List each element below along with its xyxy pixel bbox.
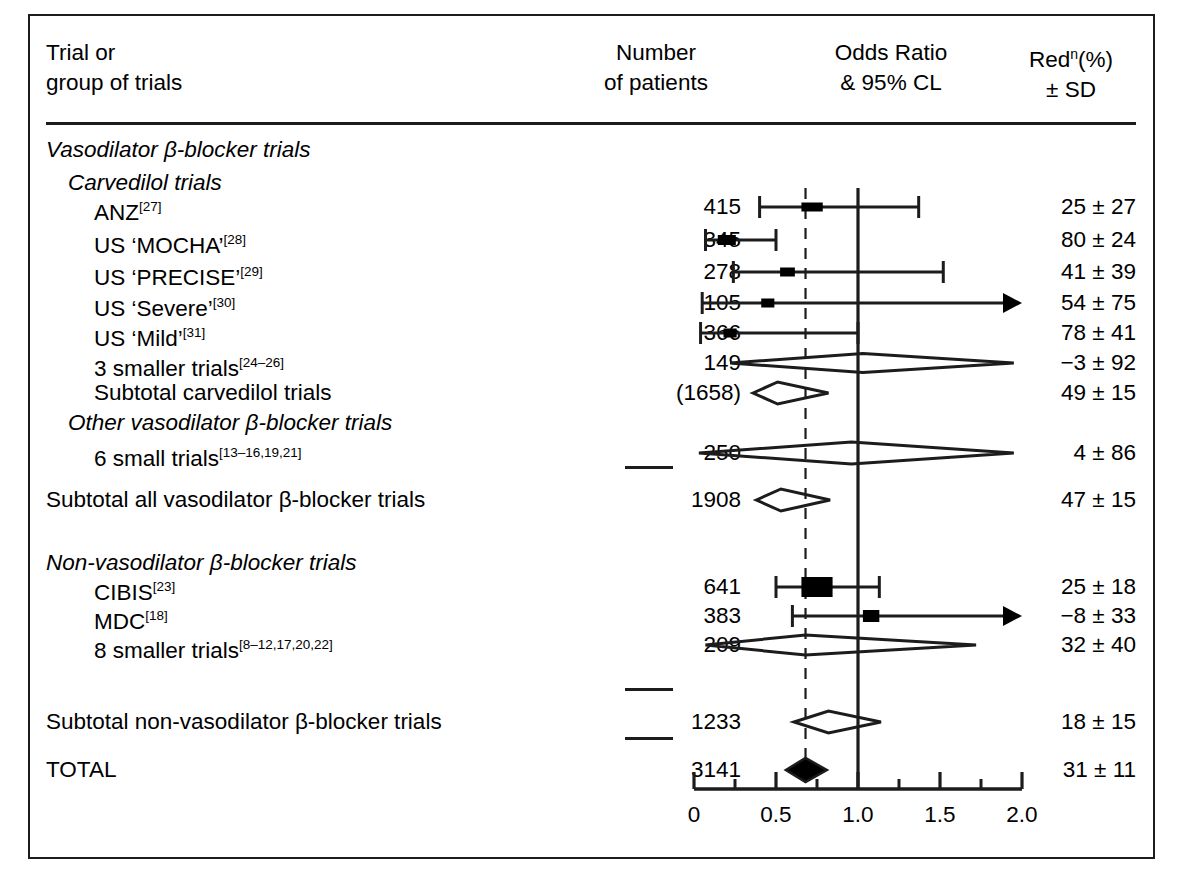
row-label-text: Subtotal non-vasodilator β-blocker trial…	[46, 709, 442, 734]
row-patient-count: 250	[546, 438, 741, 468]
row-reduction-value: −8 ± 33	[996, 601, 1136, 631]
table-row: ANZ[27]41525 ± 27	[46, 192, 1136, 222]
row-label-text: Vasodilator β-blocker trials	[46, 137, 311, 162]
row-label-reference: [24–26]	[239, 355, 284, 370]
row-patient-count: 345	[546, 225, 741, 255]
row-label-text: US ‘PRECISE’	[94, 265, 240, 290]
subtotal-rule-vasodilator	[625, 466, 673, 469]
table-row: TOTAL314131 ± 11	[46, 755, 1136, 785]
row-label-reference: [28]	[224, 232, 247, 247]
table-row: US ‘PRECISE’[29]27841 ± 39	[46, 257, 1136, 287]
row-reduction-value: 25 ± 27	[996, 192, 1136, 222]
subtotal-rule-nonvasodilator	[625, 688, 673, 691]
row-label: TOTAL	[46, 755, 116, 785]
row-label-text: ANZ	[94, 200, 139, 225]
row-reduction-value: 32 ± 40	[996, 630, 1136, 660]
row-label: Vasodilator β-blocker trials	[46, 135, 311, 165]
row-patient-count: 149	[546, 348, 741, 378]
table-row: Vasodilator β-blocker trials	[46, 135, 1136, 165]
x-axis-tick-label: 2.0	[992, 800, 1052, 830]
row-reduction-value: 80 ± 24	[996, 225, 1136, 255]
table-row: Subtotal non-vasodilator β-blocker trial…	[46, 707, 1136, 737]
x-axis-tick-label: 1.5	[910, 800, 970, 830]
row-reduction-value: 49 ± 15	[996, 378, 1136, 408]
table-row: US ‘Mild’[31]36678 ± 41	[46, 318, 1136, 348]
row-reduction-value: 54 ± 75	[996, 288, 1136, 318]
row-reduction-value: 78 ± 41	[996, 318, 1136, 348]
row-patient-count: 1233	[546, 707, 741, 737]
x-axis-tick-label: 1.0	[828, 800, 888, 830]
row-patient-count: 415	[546, 192, 741, 222]
row-label-text: Subtotal carvedilol trials	[94, 380, 332, 405]
row-label-reference: [27]	[139, 199, 162, 214]
row-label-reference: [13–16,19,21]	[219, 445, 302, 460]
forest-plot-figure: Trial or group of trials Number of patie…	[0, 0, 1183, 886]
row-label-text: 3 smaller trials	[94, 356, 239, 381]
row-label-reference: [8–12,17,20,22]	[239, 637, 333, 652]
row-reduction-value: 47 ± 15	[996, 485, 1136, 515]
row-reduction-value: 18 ± 15	[996, 707, 1136, 737]
row-label: 8 smaller trials[8–12,17,20,22]	[94, 630, 333, 666]
row-label: Subtotal all vasodilator β-blocker trial…	[46, 485, 425, 515]
table-row: Subtotal all vasodilator β-blocker trial…	[46, 485, 1136, 515]
row-patient-count: 1908	[546, 485, 741, 515]
row-label-text: 6 small trials	[94, 446, 219, 471]
row-reduction-value: 41 ± 39	[996, 257, 1136, 287]
row-label-reference: [29]	[240, 264, 263, 279]
row-patient-count: 383	[546, 601, 741, 631]
row-label-reference: [30]	[213, 295, 236, 310]
row-label-text: Subtotal all vasodilator β-blocker trial…	[46, 487, 425, 512]
x-axis-tick-labels: 00.51.01.52.0	[0, 800, 1183, 834]
table-row: 6 small trials[13–16,19,21]2504 ± 86	[46, 438, 1136, 468]
row-patient-count: (1658)	[546, 378, 741, 408]
row-label: US ‘MOCHA’[28]	[94, 225, 246, 261]
table-row: 8 smaller trials[8–12,17,20,22]20932 ± 4…	[46, 630, 1136, 660]
x-axis-tick-label: 0.5	[746, 800, 806, 830]
row-label: Subtotal non-vasodilator β-blocker trial…	[46, 707, 442, 737]
row-patient-count: 209	[546, 630, 741, 660]
row-label-text: US ‘Severe’	[94, 296, 213, 321]
table-row: MDC[18]383−8 ± 33	[46, 601, 1136, 631]
row-patient-count: 641	[546, 572, 741, 602]
row-reduction-value: −3 ± 92	[996, 348, 1136, 378]
table-rows: Vasodilator β-blocker trialsCarvedilol t…	[0, 0, 1183, 886]
total-rule	[625, 737, 673, 740]
row-label-text: 8 smaller trials	[94, 638, 239, 663]
row-label: ANZ[27]	[94, 192, 162, 228]
row-reduction-value: 25 ± 18	[996, 572, 1136, 602]
row-label-reference: [23]	[153, 579, 176, 594]
row-label-text: US ‘Mild’	[94, 326, 183, 351]
table-row: Subtotal carvedilol trials(1658)49 ± 15	[46, 378, 1136, 408]
table-row: CIBIS[23]64125 ± 18	[46, 572, 1136, 602]
row-label-reference: [18]	[145, 608, 168, 623]
table-row: 3 smaller trials[24–26]149−3 ± 92	[46, 348, 1136, 378]
row-patient-count: 105	[546, 288, 741, 318]
row-label-reference: [31]	[183, 325, 206, 340]
row-label-text: Other vasodilator β-blocker trials	[68, 410, 392, 435]
row-patient-count: 366	[546, 318, 741, 348]
row-reduction-value: 4 ± 86	[996, 438, 1136, 468]
row-patient-count: 3141	[546, 755, 741, 785]
table-row: US ‘Severe’[30]10554 ± 75	[46, 288, 1136, 318]
table-row: US ‘MOCHA’[28]34580 ± 24	[46, 225, 1136, 255]
row-label-text: US ‘MOCHA’	[94, 233, 224, 258]
x-axis-tick-label: 0	[664, 800, 724, 830]
row-label: Other vasodilator β-blocker trials	[68, 408, 392, 438]
row-label: 6 small trials[13–16,19,21]	[94, 438, 302, 474]
row-reduction-value: 31 ± 11	[996, 755, 1136, 785]
row-label-text: TOTAL	[46, 757, 116, 782]
row-label: Subtotal carvedilol trials	[94, 378, 332, 408]
table-row: Other vasodilator β-blocker trials	[46, 408, 1136, 438]
row-patient-count: 278	[546, 257, 741, 287]
